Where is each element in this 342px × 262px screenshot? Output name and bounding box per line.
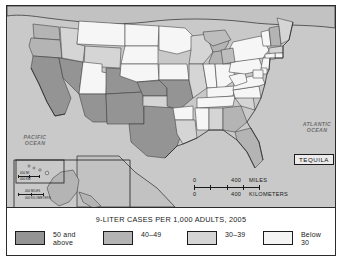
legend-title: 9-LITER CASES PER 1,000 ADULTS, 2005 <box>7 215 335 224</box>
state-SD <box>121 46 158 64</box>
hawaii-island-maui <box>39 169 41 171</box>
scale-kilometers-unit: KILOMETERS <box>249 191 288 197</box>
tequila-consumption-map-figure: .st { stroke:#3a3a3a; stroke-width:0.55;… <box>0 0 342 262</box>
legend-swatch-below-30 <box>263 231 293 245</box>
scale-tick-2 <box>227 185 228 190</box>
legend-swatch-50-and-above <box>15 231 45 245</box>
tequila-callout-label: TEQUILA <box>294 154 334 165</box>
hawaii-ruler-tick-0 <box>18 175 19 178</box>
state-OR <box>29 38 62 58</box>
scale-tick-3 <box>243 185 244 190</box>
hawaii-island-kauai <box>28 165 30 167</box>
state-ND <box>125 24 159 46</box>
state-AR <box>173 106 193 120</box>
state-NM <box>106 92 144 124</box>
scale-kilometers-row: 0 400 KILOMETERS <box>193 191 289 199</box>
scale-miles-zero: 0 <box>193 177 196 183</box>
scale-miles-row: 0 400 MILES <box>193 177 289 185</box>
hawaii-island-oahu <box>33 167 35 169</box>
state-RI <box>275 53 283 58</box>
hawaii-ruler-tick-2 <box>39 175 40 178</box>
hawaii-island-big <box>45 171 49 175</box>
hawaii-scale-kilometers: 400 KM <box>20 177 31 181</box>
scale-miles-unit: MILES <box>249 177 267 183</box>
legend-items-row: 50 and above 40–49 30–39 Below 30 <box>15 230 331 252</box>
alaska-scale-kilometers: 400 KILOMETERS <box>25 196 51 200</box>
legend-item-40-49[interactable]: 40–49 <box>103 230 161 250</box>
state-MD <box>253 70 263 78</box>
state-MS <box>195 108 209 130</box>
scale-ruler-graphic <box>194 185 260 190</box>
legend-swatch-30-39 <box>187 231 217 245</box>
legend-item-30-39[interactable]: 30–39 <box>187 230 245 250</box>
scale-tick-1 <box>210 185 211 190</box>
state-TN <box>197 96 235 108</box>
legend-label-below-30: Below 30 <box>301 230 331 247</box>
scale-miles-value: 400 <box>231 177 241 183</box>
legend-swatch-40-49 <box>103 231 133 245</box>
map-scale-bar: 0 400 MILES 0 400 KILOMETERS <box>193 177 289 199</box>
scale-kilometers-value: 400 <box>231 191 241 197</box>
legend-label-40-49: 40–49 <box>141 230 161 239</box>
map-legend-panel: 9-LITER CASES PER 1,000 ADULTS, 2005 50 … <box>7 207 335 255</box>
scale-tick-0 <box>194 185 195 190</box>
state-IA <box>159 64 189 80</box>
scale-kilometers-zero: 0 <box>193 191 196 197</box>
state-MT <box>77 21 125 46</box>
state-WA <box>33 24 60 40</box>
legend-item-below-30[interactable]: Below 30 <box>263 230 331 250</box>
state-AL <box>209 108 223 130</box>
alaska-ruler-tick-0 <box>18 193 19 196</box>
map-panel: .st { stroke:#3a3a3a; stroke-width:0.55;… <box>7 6 335 207</box>
legend-label-30-39: 30–39 <box>225 230 245 239</box>
great-lakes-huron-erie <box>221 48 235 64</box>
legend-label-50-and-above: 50 and above <box>53 230 76 247</box>
scale-tick-4 <box>259 185 260 190</box>
legend-item-50-and-above[interactable]: 50 and above <box>15 230 76 250</box>
